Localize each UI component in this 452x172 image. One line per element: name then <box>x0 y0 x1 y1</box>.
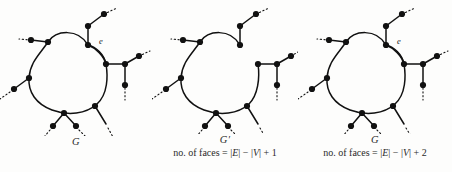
vertex-path-bottom-right <box>244 103 250 109</box>
vertex-cycle-left <box>26 75 32 81</box>
vertex-path-right <box>255 61 261 67</box>
continuation-lowleft <box>298 92 308 99</box>
vertex-bottom-left-leaf <box>202 123 208 129</box>
vertex-left-leaf <box>28 37 34 43</box>
open-path-boundary <box>181 33 259 114</box>
vertex-top-mid <box>237 23 243 29</box>
figure-root: e G <box>0 0 452 172</box>
edge-label-e: e <box>99 36 103 46</box>
vertex-cycle-left <box>324 75 330 81</box>
vertex-cycle-right <box>103 61 109 67</box>
vertex-lowleft-leaf <box>309 86 315 92</box>
vertex-bottom-left-leaf <box>50 123 56 129</box>
caption-block-g-prime: G′ no. of faces = |E| − |V| + 1 <box>152 134 298 159</box>
edge-bottomright-stem <box>247 106 258 124</box>
vertex-path-top <box>237 42 243 48</box>
vertex-right-junction <box>420 61 426 67</box>
vertex-right-up-leaf <box>136 53 142 59</box>
graph-label-g-right: G <box>298 134 452 146</box>
graph-diagram-g-right: e <box>298 0 452 134</box>
vertex-right-up-leaf <box>434 53 440 59</box>
vertex-right-up-leaf <box>288 53 294 59</box>
vertex-path-left <box>178 75 184 81</box>
graph-diagram-g-prime <box>152 0 298 134</box>
graph-panel-g-right: e G no. of faces = |E| − |V| + 2 <box>298 0 452 172</box>
edge-e <box>88 45 106 64</box>
vertex-cycle-upper-left <box>45 39 51 45</box>
faces-suffix: | + 1 <box>259 147 277 158</box>
vertex-right-down-leaf <box>122 82 128 88</box>
graph-edges <box>298 8 448 134</box>
graph-panel-g-prime: G′ no. of faces = |E| − |V| + 1 <box>152 0 298 172</box>
vertex-cycle-upper-left <box>343 39 349 45</box>
cycle-boundary <box>327 33 405 114</box>
vertex-top-mid <box>85 23 91 29</box>
vertex-top-leaf <box>101 11 107 17</box>
vertex-lowleft-leaf <box>11 86 17 92</box>
graph-panel-g-left: e G <box>0 0 152 172</box>
vertex-cycle-top <box>85 42 91 48</box>
vertex-right-junction <box>122 61 128 67</box>
caption-block-g-right: G no. of faces = |E| − |V| + 2 <box>298 134 452 159</box>
vertex-path-upper-left <box>197 39 203 45</box>
faces-prefix: no. of faces = | <box>173 147 232 158</box>
vertex-cycle-bottom-right <box>390 103 396 109</box>
vertex-right-down-leaf <box>274 82 280 88</box>
edge-bottomright-stem <box>95 106 106 124</box>
continuation-bottomright <box>108 128 113 136</box>
vertex-top-mid <box>383 23 389 29</box>
continuation-lowleft <box>152 92 162 99</box>
vertex-cycle-right <box>401 61 407 67</box>
vertex-top-leaf <box>399 11 405 17</box>
vertex-right-down-leaf <box>420 82 426 88</box>
caption-block-left: G <box>0 136 152 148</box>
vertex-lowleft-leaf <box>163 86 169 92</box>
vertex-cycle-bottom <box>359 110 365 116</box>
vertex-path-bottom <box>213 110 219 116</box>
edge-e <box>386 45 404 64</box>
vertex-bottom-right-leaf <box>225 123 231 129</box>
edge-label-e: e <box>397 36 401 46</box>
faces-mid: | − | <box>238 147 253 158</box>
faces-formula-g-prime: no. of faces = |E| − |V| + 1 <box>152 147 298 159</box>
graph-label-g-prime: G′ <box>152 134 298 146</box>
faces-prefix: no. of faces = | <box>323 147 382 158</box>
vertex-bottom-left-leaf <box>348 123 354 129</box>
cycle-boundary <box>29 33 107 114</box>
vertex-cycle-bottom-right <box>92 103 98 109</box>
vertex-left-leaf <box>326 37 332 43</box>
continuation-lowleft <box>0 92 10 99</box>
faces-suffix: | + 2 <box>409 147 427 158</box>
vertex-bottom-right-leaf <box>73 123 79 129</box>
vertex-bottom-right-leaf <box>371 123 377 129</box>
graph-edges <box>152 8 298 134</box>
graph-label-g-left: G <box>0 136 152 148</box>
graph-diagram-g-left: e <box>0 0 152 136</box>
vertex-right-junction <box>274 61 280 67</box>
faces-formula-g-right: no. of faces = |E| − |V| + 2 <box>298 147 452 159</box>
vertex-cycle-top <box>383 42 389 48</box>
graph-edges <box>0 8 150 136</box>
faces-mid: | − | <box>388 147 403 158</box>
vertex-cycle-bottom <box>61 110 67 116</box>
vertex-left-leaf <box>180 37 186 43</box>
vertex-top-leaf <box>253 11 259 17</box>
edge-bottomright-stem <box>393 106 404 124</box>
